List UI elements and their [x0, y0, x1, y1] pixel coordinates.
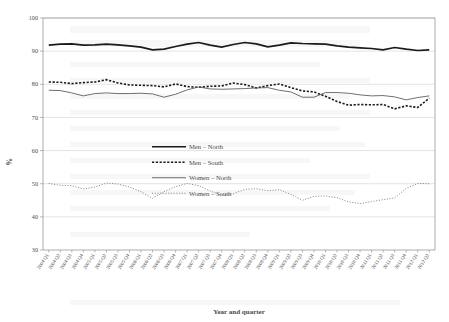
- legend-label-1: Men – South: [189, 159, 224, 166]
- chart-legend: Men – NorthMen – SouthWomen – NorthWomen…: [152, 143, 232, 197]
- bleed-line: [70, 78, 370, 83]
- y-tick-label: 60: [32, 147, 38, 154]
- y-tick-label: 50: [32, 180, 38, 187]
- bleed-line: [70, 110, 370, 115]
- x-axis-ticks: 2004 Q12004 Q22004 Q32004 Q42005 Q12005 …: [36, 250, 430, 270]
- y-tick-label: 70: [32, 114, 38, 121]
- y-tick-label: 90: [32, 47, 38, 54]
- x-tick-label: 2012 Q2: [417, 252, 431, 270]
- bleed-line: [70, 206, 330, 211]
- y-tick-label: 80: [32, 80, 38, 87]
- bleed-line: [70, 62, 320, 67]
- quarterly-employment-rate-chart: 304050607080901002004 Q12004 Q22004 Q320…: [0, 0, 449, 322]
- y-tick-label: 100: [29, 14, 38, 21]
- bleed-line: [70, 300, 400, 305]
- bleed-line: [70, 232, 250, 237]
- y-tick-label: 40: [32, 213, 38, 220]
- bleed-line: [70, 94, 350, 99]
- legend-label-0: Men – North: [189, 143, 224, 150]
- y-tick-label: 30: [32, 246, 38, 253]
- chart-canvas: 304050607080901002004 Q12004 Q22004 Q320…: [0, 0, 449, 322]
- y-gridlines: 30405060708090100: [29, 14, 435, 253]
- legend-label-3: Women – South: [189, 190, 232, 197]
- x-axis-title: Year and quarter: [213, 308, 265, 316]
- y-axis-title: %: [5, 158, 14, 166]
- legend-label-2: Women – North: [189, 174, 232, 181]
- bleed-line: [70, 126, 340, 131]
- bleed-line: [70, 26, 370, 33]
